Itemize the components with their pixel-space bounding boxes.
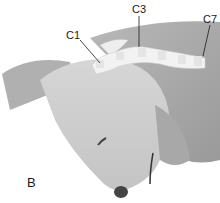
dog-head-illustration (0, 0, 220, 203)
figure: C1 C3 C7 B (0, 0, 220, 203)
nose (114, 186, 128, 198)
label-c1: C1 (66, 30, 80, 41)
label-c3: C3 (132, 4, 146, 15)
panel-label: B (27, 176, 36, 189)
label-c7: C7 (203, 14, 217, 25)
